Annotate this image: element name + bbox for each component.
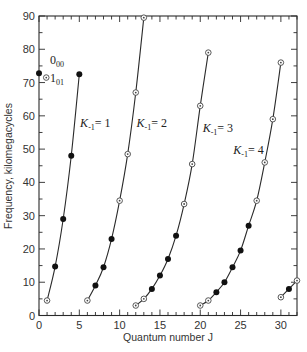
open-point-dot (280, 62, 282, 64)
x-tick-label: 20 (194, 319, 206, 331)
open-point-dot (46, 300, 48, 302)
y-tick-label: 80 (23, 43, 35, 55)
series-label-3: K-1= 3 (202, 121, 233, 137)
open-point-dot (207, 52, 209, 54)
open-point-dot (45, 77, 47, 79)
open-point-dot (143, 298, 145, 300)
open-point-dot (199, 305, 201, 307)
x-tick-label: 10 (114, 319, 126, 331)
filled-point (109, 236, 115, 242)
data-markers (36, 15, 300, 308)
y-tick-label: 10 (23, 276, 35, 288)
x-tick-label: 25 (234, 319, 246, 331)
annotation-0-00: 000 (50, 53, 64, 69)
filled-point (165, 256, 171, 262)
series-curve-2 (87, 18, 143, 301)
open-point-dot (127, 153, 129, 155)
series-label-4: K-1= 4 (232, 143, 263, 159)
series-labels: K-1= 1K-1= 2K-1= 3K-1= 4000101 (50, 53, 264, 159)
series-label-1: K-1= 1 (79, 116, 110, 132)
frequency-chart: 0510152025300102030405060708090 K-1= 1K-… (0, 0, 307, 352)
open-point-dot (264, 162, 266, 164)
series-curve-1 (47, 74, 79, 300)
filled-point (76, 71, 82, 77)
y-axis-title: Frequency, kilomegacycles (2, 103, 14, 229)
open-point-dot (119, 200, 121, 202)
annotation-point (36, 70, 42, 76)
filled-point (52, 264, 58, 270)
filled-point (230, 264, 236, 270)
filled-point (149, 286, 155, 292)
open-point-dot (207, 300, 209, 302)
open-point-dot (191, 163, 193, 165)
open-point-dot (86, 300, 88, 302)
filled-point (173, 233, 179, 239)
series-label-2: K-1= 2 (136, 116, 167, 132)
y-tick-label: 50 (23, 143, 35, 155)
y-tick-label: 0 (29, 310, 35, 322)
x-tick-label: 5 (76, 319, 82, 331)
open-point-dot (256, 200, 258, 202)
filled-point (221, 279, 227, 285)
open-point-dot (272, 118, 274, 120)
open-point-dot (135, 92, 137, 94)
open-point-dot (183, 203, 185, 205)
series-curve-4 (200, 63, 281, 306)
filled-point (286, 286, 292, 292)
filled-point (101, 264, 107, 270)
series-curve-3 (136, 53, 209, 306)
axes: 0510152025300102030405060708090 (23, 10, 297, 331)
filled-point (238, 248, 244, 254)
x-tick-label: 0 (36, 319, 42, 331)
plot-frame (39, 16, 297, 316)
open-point-dot (296, 280, 298, 282)
filled-point (246, 223, 252, 229)
filled-point (60, 216, 66, 222)
series-curves (47, 18, 297, 306)
x-tick-label: 15 (154, 319, 166, 331)
y-tick-label: 70 (23, 77, 35, 89)
open-point-dot (280, 296, 282, 298)
y-tick-label: 40 (23, 176, 35, 188)
y-tick-label: 30 (23, 210, 35, 222)
open-point-dot (143, 17, 145, 19)
annotation-1-01: 101 (50, 71, 64, 87)
open-point-dot (199, 105, 201, 107)
y-tick-label: 20 (23, 243, 35, 255)
x-tick-label: 30 (275, 319, 287, 331)
filled-point (92, 283, 98, 289)
filled-point (157, 273, 163, 279)
x-axis-title: Quantum number J (123, 331, 213, 343)
y-tick-label: 60 (23, 110, 35, 122)
filled-point (68, 153, 74, 159)
y-tick-label: 90 (23, 10, 35, 22)
open-point-dot (135, 305, 137, 307)
filled-point (213, 289, 219, 295)
